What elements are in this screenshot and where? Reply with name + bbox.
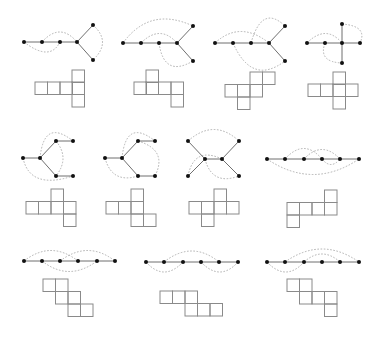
net-square: [171, 95, 184, 108]
panel-1: [22, 23, 103, 107]
tree-node: [340, 22, 344, 26]
panels-group: [21, 18, 362, 316]
tree-node: [236, 260, 240, 264]
net-square: [325, 292, 338, 305]
tree-graph: [186, 130, 241, 179]
tree-node: [22, 40, 26, 44]
tree-graph: [22, 23, 103, 62]
net-square: [26, 202, 39, 215]
tree-node: [58, 259, 62, 263]
tree-edge: [177, 26, 193, 43]
tree-node: [305, 41, 309, 45]
net-square: [159, 82, 172, 95]
net-square: [72, 95, 85, 108]
tree-edge: [77, 25, 93, 42]
dashed-arc: [42, 261, 97, 272]
dashed-arc: [164, 251, 219, 262]
tree-node: [191, 24, 195, 28]
tree-node: [113, 259, 117, 263]
dashed-arc: [123, 19, 193, 43]
tree-edge: [77, 42, 93, 60]
net-square: [48, 82, 61, 95]
tree-edge: [40, 158, 56, 176]
panel-2: [121, 19, 195, 107]
tree-edge: [122, 158, 138, 176]
cube-net: [35, 70, 85, 107]
net-square: [238, 97, 251, 110]
net-square: [171, 82, 184, 95]
tree-node: [267, 41, 271, 45]
dashed-arc: [205, 159, 239, 179]
tree-node: [302, 260, 306, 264]
tree-graph: [265, 249, 361, 272]
tree-node: [231, 41, 235, 45]
tree-node: [320, 157, 324, 161]
dashed-arc: [138, 141, 159, 176]
net-square: [250, 72, 263, 85]
tree-node: [40, 259, 44, 263]
tree-node: [153, 139, 157, 143]
tree-edge: [177, 43, 193, 61]
tree-edge: [188, 159, 205, 176]
net-square: [312, 203, 325, 216]
tree-node: [38, 156, 42, 160]
net-square: [214, 189, 227, 202]
tree-node: [103, 156, 107, 160]
tree-edge: [269, 26, 285, 43]
panel-4: [305, 22, 362, 109]
tree-node: [199, 260, 203, 264]
net-square: [238, 85, 251, 98]
dashed-arc: [188, 130, 239, 142]
dashed-arc: [215, 32, 269, 44]
tree-node: [136, 139, 140, 143]
tree-node: [338, 260, 342, 264]
tree-node: [220, 157, 224, 161]
tree-graph: [144, 251, 240, 272]
net-square: [131, 189, 144, 202]
panel-3: [213, 18, 287, 109]
net-square: [51, 189, 64, 202]
tree-node: [75, 40, 79, 44]
tree-node: [249, 41, 253, 45]
net-square: [300, 292, 313, 305]
net-square: [64, 202, 77, 215]
tree-node: [91, 23, 95, 27]
tree-node: [175, 41, 179, 45]
tree-node: [357, 157, 361, 161]
net-square: [287, 215, 300, 228]
panel-10: [144, 251, 240, 316]
tree-node: [237, 174, 241, 178]
panel-7: [186, 130, 241, 227]
net-square: [333, 72, 346, 85]
tree-node: [237, 139, 241, 143]
net-square: [106, 202, 119, 215]
tree-node: [323, 41, 327, 45]
net-square: [39, 202, 52, 215]
net-square: [308, 84, 321, 97]
tree-node: [22, 259, 26, 263]
net-square: [189, 202, 202, 215]
net-square: [35, 82, 48, 95]
tree-node: [157, 41, 161, 45]
net-square: [214, 202, 227, 215]
tree-node: [95, 259, 99, 263]
net-square: [160, 291, 173, 304]
net-square: [300, 279, 313, 292]
net-square: [64, 214, 77, 227]
tree-node: [144, 260, 148, 264]
tree-edge: [40, 141, 56, 158]
tree-node: [91, 58, 95, 62]
tree-graph: [265, 149, 361, 175]
dashed-arc: [93, 25, 103, 60]
cube-net: [43, 279, 93, 317]
tree-node: [54, 174, 58, 178]
tree-node: [120, 156, 124, 160]
panel-11: [265, 249, 361, 317]
tree-graph: [21, 133, 75, 181]
net-square: [144, 214, 157, 227]
dashed-arc: [342, 24, 362, 43]
tree-edge: [269, 43, 285, 61]
tree-graph: [121, 19, 195, 67]
cube-net: [106, 189, 156, 227]
net-square: [185, 304, 198, 317]
